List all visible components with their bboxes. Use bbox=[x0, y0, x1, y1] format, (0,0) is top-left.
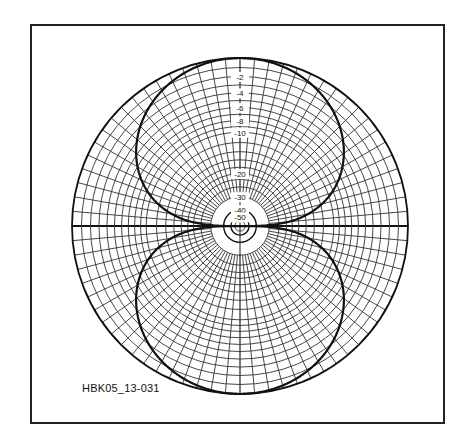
radial-gridline bbox=[197, 254, 233, 388]
radial-gridline bbox=[156, 81, 225, 201]
radial-gridline bbox=[248, 254, 284, 388]
ring-label: -6 bbox=[236, 104, 244, 113]
radial-gridline bbox=[156, 251, 225, 371]
ring-label: -8 bbox=[236, 117, 244, 126]
ring-label: -30 bbox=[234, 193, 246, 202]
radial-gridline bbox=[255, 251, 324, 371]
ring-label: -4 bbox=[236, 89, 244, 98]
ring-label: -20 bbox=[234, 170, 246, 179]
polar-plot: -2-4-6-8-10-20-30-40-50 bbox=[0, 0, 469, 443]
ring-label: -2 bbox=[236, 73, 244, 82]
radial-gridline bbox=[255, 81, 324, 201]
figure-id-label: HBK05_13-031 bbox=[82, 382, 160, 394]
radial-gridline bbox=[197, 64, 233, 198]
radial-gridline bbox=[248, 64, 284, 198]
ring-label: -10 bbox=[234, 129, 246, 138]
ring-label: -50 bbox=[234, 213, 246, 222]
